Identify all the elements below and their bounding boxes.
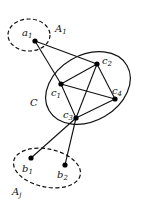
labels: A1CAja1c1c2c3c4b1b2 — [11, 23, 122, 199]
edge-c1-c2 — [61, 64, 97, 84]
node-a1-label: a1 — [22, 27, 32, 40]
node-b2-label: b2 — [57, 169, 68, 182]
node-c3-label: c3 — [63, 109, 74, 122]
graph-diagram: A1CAja1c1c2c3c4b1b2 — [0, 0, 143, 205]
node-a1 — [32, 38, 37, 43]
edge-a1-c1 — [35, 41, 61, 84]
group-A1-label: A1 — [54, 23, 67, 36]
node-c1 — [58, 81, 63, 86]
node-c2 — [94, 61, 99, 66]
node-b2 — [62, 162, 67, 167]
edge-c3-b2 — [65, 118, 76, 165]
group-C-label: C — [30, 97, 38, 108]
node-b1 — [28, 155, 33, 160]
node-c1-label: c1 — [51, 87, 61, 100]
group-Aj-label: Aj — [11, 186, 22, 199]
group-Aj-ellipse — [10, 142, 84, 193]
node-c2-label: c2 — [102, 55, 113, 68]
node-c3 — [73, 115, 78, 120]
node-b1-label: b1 — [22, 163, 33, 176]
edge-c3-b1 — [31, 118, 76, 158]
